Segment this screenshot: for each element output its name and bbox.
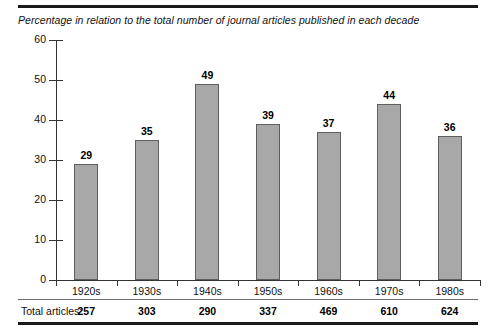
bar bbox=[438, 136, 462, 280]
bar bbox=[195, 84, 219, 280]
total-articles-value: 610 bbox=[359, 305, 419, 318]
bar bbox=[256, 124, 280, 280]
x-axis-category-label: 1960s bbox=[299, 285, 359, 297]
chart-figure: Percentage in relation to the total numb… bbox=[0, 0, 494, 333]
y-axis-tick-label: 40 bbox=[34, 113, 46, 126]
bar bbox=[377, 104, 401, 280]
total-articles-value: 469 bbox=[299, 305, 359, 318]
y-axis-tick-mark bbox=[49, 240, 63, 241]
total-articles-value: 257 bbox=[56, 305, 116, 318]
total-articles-value: 624 bbox=[420, 305, 480, 318]
total-articles-value: 337 bbox=[238, 305, 298, 318]
bar-value-label: 37 bbox=[309, 117, 349, 129]
bar-value-label: 49 bbox=[187, 69, 227, 81]
top-divider-rule bbox=[18, 5, 478, 8]
plot-area: 0102030405060 29354939374436 bbox=[56, 40, 480, 280]
y-axis-tick-mark bbox=[49, 200, 63, 201]
y-axis-tick-label: 60 bbox=[34, 33, 46, 46]
bottom-divider-rule bbox=[18, 322, 478, 325]
y-axis-tick-label: 30 bbox=[34, 153, 46, 166]
bar bbox=[317, 132, 341, 280]
bar-value-label: 39 bbox=[248, 109, 288, 121]
bar-value-label: 35 bbox=[127, 125, 167, 137]
total-articles-value: 303 bbox=[117, 305, 177, 318]
bar-value-label: 36 bbox=[430, 121, 470, 133]
x-axis-category-label: 1940s bbox=[177, 285, 237, 297]
bar-value-label: 44 bbox=[369, 89, 409, 101]
y-axis-tick-mark bbox=[49, 160, 63, 161]
y-axis-tick-mark bbox=[49, 120, 63, 121]
x-axis-category-label: 1930s bbox=[117, 285, 177, 297]
bar bbox=[74, 164, 98, 280]
y-axis-tick-label: 20 bbox=[34, 193, 46, 206]
totals-top-rule bbox=[18, 299, 478, 300]
y-axis-tick-label: 50 bbox=[34, 73, 46, 86]
x-axis-line bbox=[56, 280, 480, 281]
chart-title: Percentage in relation to the total numb… bbox=[18, 14, 419, 26]
x-axis-category-label: 1980s bbox=[420, 285, 480, 297]
y-axis-tick-label: 0 bbox=[40, 273, 46, 286]
y-axis-tick-mark bbox=[49, 40, 63, 41]
y-axis-tick-label: 10 bbox=[34, 233, 46, 246]
x-axis-category-label: 1920s bbox=[56, 285, 116, 297]
bar-value-label: 29 bbox=[66, 149, 106, 161]
total-articles-value: 290 bbox=[177, 305, 237, 318]
x-axis-category-label: 1970s bbox=[359, 285, 419, 297]
y-axis-tick-mark bbox=[49, 80, 63, 81]
bar bbox=[135, 140, 159, 280]
x-axis-tick-mark bbox=[480, 280, 481, 286]
x-axis-category-label: 1950s bbox=[238, 285, 298, 297]
